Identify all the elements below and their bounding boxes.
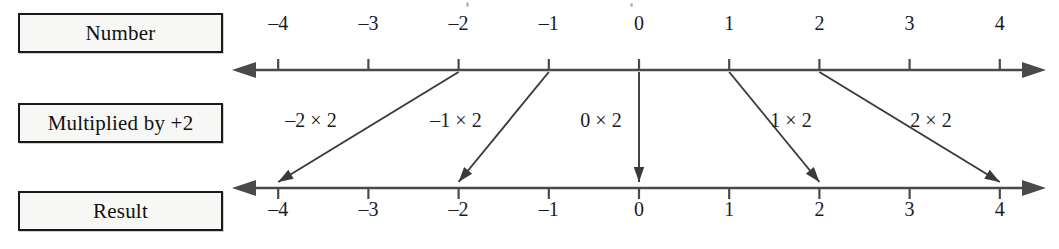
top-tick-marks bbox=[278, 59, 1000, 70]
tick-label: –3 bbox=[338, 198, 398, 221]
tick-label: –1 bbox=[519, 12, 579, 35]
operation-expression: 2 × 2 bbox=[871, 109, 991, 132]
tick-label: –2 bbox=[429, 12, 489, 35]
tick-label: –4 bbox=[248, 198, 308, 221]
mapping-arrowhead bbox=[634, 167, 644, 182]
tick-label: 4 bbox=[970, 12, 1030, 35]
axis-arrowhead-left bbox=[232, 62, 256, 78]
tick-label: 2 bbox=[789, 198, 849, 221]
tick-label: 1 bbox=[699, 198, 759, 221]
tick-label: 3 bbox=[880, 198, 940, 221]
tick-label: 1 bbox=[699, 12, 759, 35]
tick-label: 2 bbox=[789, 12, 849, 35]
axis-arrowhead-right bbox=[1022, 62, 1046, 78]
operation-expression: 0 × 2 bbox=[541, 109, 661, 132]
axis-arrowhead-right bbox=[1022, 180, 1046, 196]
operation-expression: –2 × 2 bbox=[251, 109, 371, 132]
tick-label: –3 bbox=[338, 12, 398, 35]
tick-label: 3 bbox=[880, 12, 940, 35]
mapping-arrowhead bbox=[278, 170, 294, 182]
tick-label: 0 bbox=[609, 198, 669, 221]
operation-expression: –1 × 2 bbox=[396, 109, 516, 132]
tick-label: –2 bbox=[429, 198, 489, 221]
axis-arrowhead-left bbox=[232, 180, 256, 196]
figure-canvas: Number Multiplied by +2 Result –4–3–2–10… bbox=[0, 0, 1059, 249]
tick-label: –4 bbox=[248, 12, 308, 35]
mapping-arrowhead bbox=[984, 170, 1000, 182]
tick-label: 0 bbox=[609, 12, 669, 35]
number-line-result bbox=[232, 180, 1046, 199]
operation-expression: 1 × 2 bbox=[731, 109, 851, 132]
tick-label: 4 bbox=[970, 198, 1030, 221]
tick-label: –1 bbox=[519, 198, 579, 221]
